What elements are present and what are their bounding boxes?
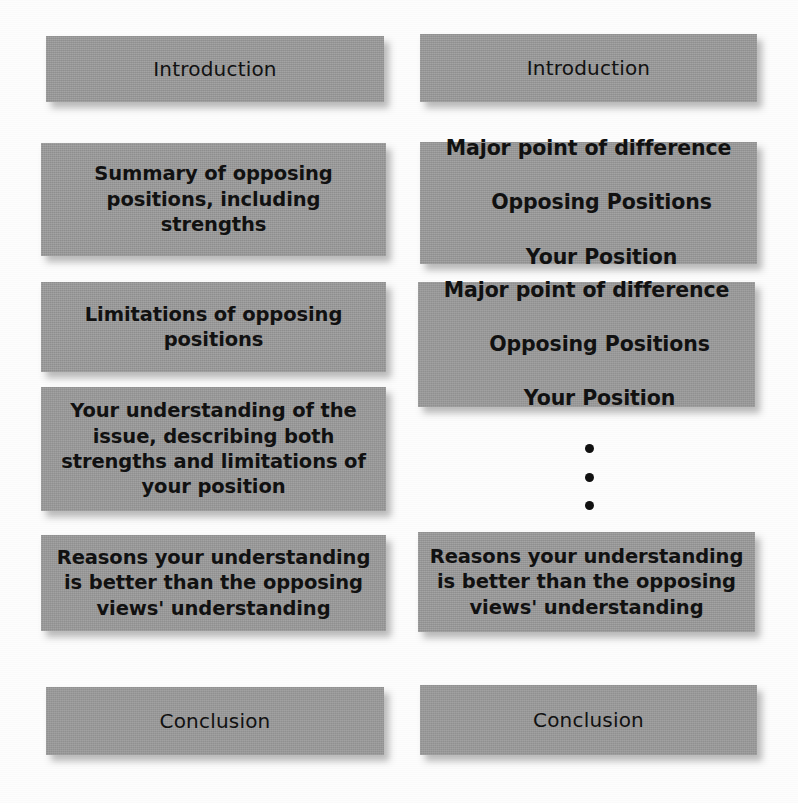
block-right-major-point-2-stack: Major point of difference Opposing Posit… — [428, 250, 745, 439]
block-left-summary-of-opposing-positions: Summary of opposing positions, including… — [41, 143, 386, 256]
diagram-canvas: Introduction Summary of opposing positio… — [0, 0, 798, 803]
ellipsis-dot — [585, 501, 594, 510]
block-right-introduction-label: Introduction — [430, 56, 747, 81]
block-right-conclusion-label: Conclusion — [430, 708, 747, 733]
block-left-summary-of-opposing-positions-label: Summary of opposing positions, including… — [51, 161, 376, 237]
column-point-by-point-method: Introduction Major point of difference O… — [400, 0, 798, 803]
block-left-reasons-your-understanding-is-better: Reasons your understanding is better tha… — [41, 535, 386, 631]
ellipsis-dot — [585, 473, 594, 482]
column-block-method: Introduction Summary of opposing positio… — [0, 0, 400, 803]
block-left-your-understanding-label: Your understanding of the issue, describ… — [51, 398, 376, 499]
vertical-ellipsis-icon — [580, 444, 598, 510]
block-right-major-point-of-difference-2: Major point of difference Opposing Posit… — [418, 282, 755, 407]
block-right-reasons-your-understanding-is-better-label: Reasons your understanding is better tha… — [428, 544, 745, 620]
block-left-conclusion: Conclusion — [46, 687, 384, 755]
ellipsis-dot — [585, 444, 594, 453]
block-left-introduction-label: Introduction — [56, 57, 374, 82]
block-right-major-point-1-line2: Opposing Positions — [430, 189, 747, 216]
block-right-major-point-2-line2: Opposing Positions — [428, 331, 745, 358]
block-right-conclusion: Conclusion — [420, 685, 757, 755]
block-left-introduction: Introduction — [46, 36, 384, 102]
block-right-reasons-your-understanding-is-better: Reasons your understanding is better tha… — [418, 532, 755, 632]
block-left-limitations-of-opposing-positions: Limitations of opposing positions — [41, 282, 386, 372]
block-right-major-point-2-line1: Major point of difference — [428, 277, 745, 304]
block-left-conclusion-label: Conclusion — [56, 709, 374, 734]
block-right-introduction: Introduction — [420, 34, 757, 102]
block-right-major-point-of-difference-1: Major point of difference Opposing Posit… — [420, 142, 757, 264]
block-right-major-point-1-line1: Major point of difference — [430, 135, 747, 162]
block-right-major-point-2-line3: Your Position — [428, 385, 745, 412]
block-left-limitations-of-opposing-positions-label: Limitations of opposing positions — [51, 302, 376, 353]
block-left-reasons-your-understanding-is-better-label: Reasons your understanding is better tha… — [51, 545, 376, 621]
block-left-your-understanding: Your understanding of the issue, describ… — [41, 387, 386, 511]
